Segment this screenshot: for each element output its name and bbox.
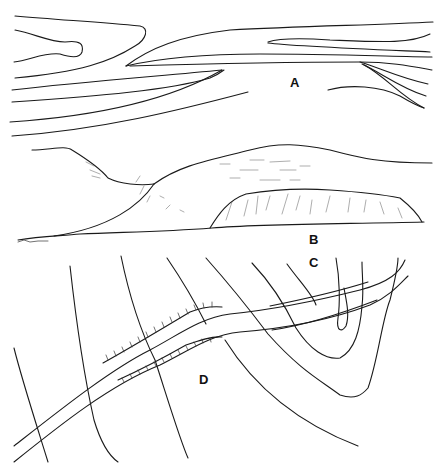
line-drawing: [0, 0, 443, 470]
diagram-stage: A B C D: [0, 0, 443, 470]
panel-b-profile: [18, 145, 432, 242]
label-c: C: [309, 256, 318, 269]
label-d: D: [199, 373, 208, 386]
label-b: B: [309, 233, 318, 246]
panel-a-contours: [10, 16, 433, 136]
panel-cd-contours: [14, 256, 408, 462]
label-a: A: [290, 76, 299, 89]
